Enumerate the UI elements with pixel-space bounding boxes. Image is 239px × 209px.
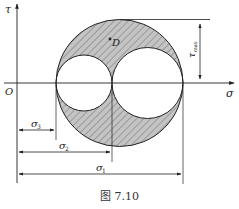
point-d-marker xyxy=(109,38,112,41)
svg-text:max: max xyxy=(192,41,198,52)
sigma-2-label: σ 2 xyxy=(59,140,69,152)
point-d-label: D xyxy=(111,37,120,48)
svg-text:3: 3 xyxy=(37,123,41,130)
figure-caption: 图 7.10 xyxy=(0,187,239,203)
sigma-axis-label: σ xyxy=(226,87,234,100)
svg-text:1: 1 xyxy=(102,167,106,174)
origin-label: O xyxy=(5,86,13,97)
tau-max-label: τ max xyxy=(186,41,198,58)
mohr-circle-diagram: τ σ O D τ max σ 3 xyxy=(0,0,239,209)
tau-axis-label: τ xyxy=(5,3,12,16)
sigma-1-label: σ 1 xyxy=(96,162,106,174)
svg-text:2: 2 xyxy=(65,145,69,152)
sigma-3-label: σ 3 xyxy=(31,118,41,130)
